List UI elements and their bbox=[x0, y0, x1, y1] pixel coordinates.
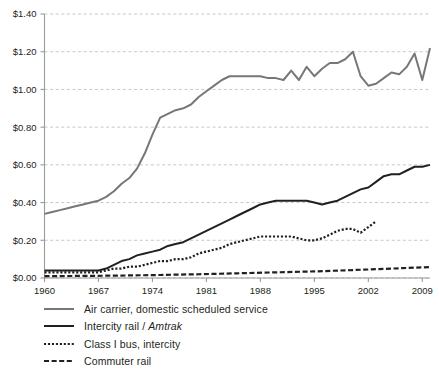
legend-item: Air carrier, domestic scheduled service bbox=[44, 300, 344, 318]
y-tick-label: $0.60 bbox=[13, 159, 37, 170]
legend-label: Class I bus, intercity bbox=[84, 338, 180, 350]
y-tick-label: $1.00 bbox=[13, 84, 37, 95]
x-tick-label: 1981 bbox=[196, 285, 217, 296]
x-tick-label: 1960 bbox=[34, 285, 55, 296]
y-axis-tick-labels: $0.00$0.20$0.40$0.60$0.80$1.00$1.20$1.40 bbox=[13, 8, 37, 283]
y-tick-label: $1.40 bbox=[13, 8, 37, 19]
legend-swatch-icon bbox=[44, 356, 74, 366]
legend-item: Commuter rail bbox=[44, 353, 344, 371]
line-chart: $0.00$0.20$0.40$0.60$0.80$1.00$1.20$1.40… bbox=[0, 0, 439, 373]
legend-label: Commuter rail bbox=[84, 355, 151, 367]
series-line-1 bbox=[45, 165, 431, 271]
series-line-0 bbox=[45, 48, 431, 214]
x-tick-label: 1995 bbox=[304, 285, 325, 296]
data-series bbox=[45, 48, 431, 276]
legend-item: Class I bus, intercity bbox=[44, 335, 344, 353]
legend-swatch-icon bbox=[44, 339, 74, 349]
x-axis-tick-labels: 19601967197419811988199520022009 bbox=[34, 285, 433, 296]
chart-legend: Air carrier, domestic scheduled serviceI… bbox=[44, 300, 344, 370]
legend-item: Intercity rail / Amtrak bbox=[44, 318, 344, 336]
x-tick-label: 2009 bbox=[412, 285, 433, 296]
y-tick-label: $0.80 bbox=[13, 122, 37, 133]
y-tick-label: $0.00 bbox=[13, 272, 37, 283]
x-tick-label: 2002 bbox=[358, 285, 379, 296]
x-tick-label: 1967 bbox=[88, 285, 109, 296]
legend-swatch-icon bbox=[44, 321, 74, 331]
legend-swatch-icon bbox=[44, 304, 74, 314]
y-tick-label: $0.40 bbox=[13, 197, 37, 208]
y-tick-label: $1.20 bbox=[13, 46, 37, 57]
legend-label: Air carrier, domestic scheduled service bbox=[84, 303, 268, 315]
gridlines bbox=[45, 14, 431, 278]
x-tick-label: 1988 bbox=[250, 285, 271, 296]
series-line-3 bbox=[45, 267, 431, 276]
legend-label: Intercity rail / Amtrak bbox=[84, 320, 182, 332]
y-tick-label: $0.20 bbox=[13, 235, 37, 246]
x-tick-label: 1974 bbox=[142, 285, 163, 296]
